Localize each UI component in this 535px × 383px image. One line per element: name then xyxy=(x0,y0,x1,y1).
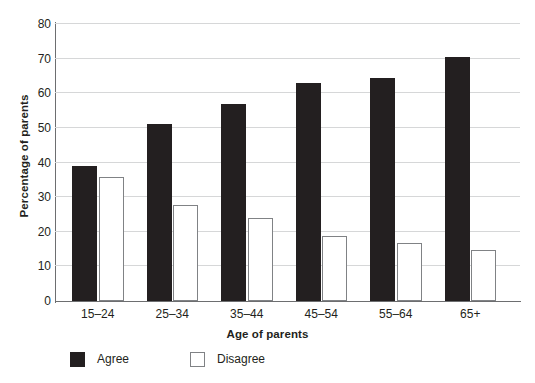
y-axis-tick-label: 30 xyxy=(5,191,51,203)
legend-label: Agree xyxy=(97,352,129,366)
x-axis-tick-label: 25–34 xyxy=(132,307,212,321)
bar-disagree-3 xyxy=(322,236,347,301)
y-axis-tick-label: 40 xyxy=(5,157,51,169)
bar-agree-1 xyxy=(147,124,172,301)
legend-label: Disagree xyxy=(217,352,265,366)
bar-agree-5 xyxy=(445,57,470,301)
bar-agree-0 xyxy=(72,166,97,301)
y-axis-tick-label: 60 xyxy=(5,87,51,99)
y-axis-tick-labels: 01020304050607080 xyxy=(0,0,51,383)
bar-agree-3 xyxy=(296,83,321,301)
legend-swatch-disagree-icon xyxy=(190,352,205,367)
x-axis-line xyxy=(55,301,521,302)
y-axis-tick-label: 70 xyxy=(5,53,51,65)
x-axis-tick-label: 35–44 xyxy=(207,307,287,321)
legend-swatch-agree-icon xyxy=(70,352,85,367)
gridline xyxy=(55,23,520,24)
x-axis-tick-label: 55–64 xyxy=(356,307,436,321)
bar-disagree-0 xyxy=(99,177,124,301)
bar-agree-4 xyxy=(370,78,395,301)
y-axis-tick-label: 20 xyxy=(5,226,51,238)
y-axis-tick-label: 0 xyxy=(5,295,51,307)
y-axis-tick-label: 50 xyxy=(5,122,51,134)
plot-area xyxy=(55,24,520,301)
bar-disagree-2 xyxy=(248,218,273,301)
bar-disagree-4 xyxy=(397,243,422,301)
x-axis-title: Age of parents xyxy=(0,328,535,340)
y-axis-tick-label: 10 xyxy=(5,260,51,272)
x-axis-tick-label: 15–24 xyxy=(58,307,138,321)
bar-disagree-5 xyxy=(471,250,496,301)
y-axis-tick-label: 80 xyxy=(5,18,51,30)
bar-chart: Percentage of parents 01020304050607080 … xyxy=(0,0,535,383)
legend-item-disagree: Disagree xyxy=(190,350,265,368)
bar-agree-2 xyxy=(221,104,246,301)
x-axis-tick-label: 45–54 xyxy=(281,307,361,321)
x-axis-tick-label: 65+ xyxy=(430,307,510,321)
legend-item-agree: Agree xyxy=(70,350,129,368)
bar-disagree-1 xyxy=(173,205,198,301)
